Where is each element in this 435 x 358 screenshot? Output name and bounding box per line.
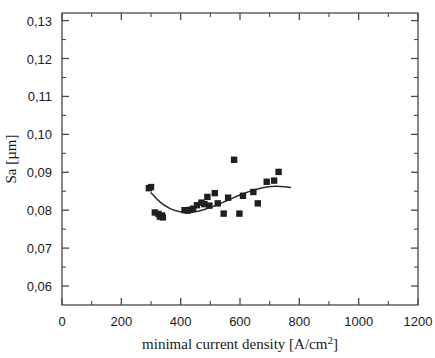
x-tick-label: 800 — [288, 314, 310, 329]
data-point — [225, 194, 231, 200]
y-tick-label: 0,07 — [27, 241, 52, 256]
data-point — [236, 210, 242, 216]
x-tick-label: 600 — [229, 314, 251, 329]
data-point — [220, 210, 226, 216]
y-tick-label: 0,06 — [27, 279, 52, 294]
data-point — [264, 179, 270, 185]
data-point — [250, 189, 256, 195]
data-point — [215, 200, 221, 206]
data-point — [160, 214, 166, 220]
data-point — [231, 157, 237, 163]
scatter-chart-figure: 0200400600800100012000,060,070,080,090,1… — [0, 0, 435, 358]
x-tick-label: 400 — [170, 314, 192, 329]
data-point — [148, 184, 154, 190]
y-tick-label: 0,10 — [27, 127, 52, 142]
y-tick-label: 0,12 — [27, 52, 52, 67]
data-point — [206, 202, 212, 208]
y-tick-label: 0,08 — [27, 203, 52, 218]
data-point — [240, 193, 246, 199]
data-point — [204, 194, 210, 200]
y-tick-label: 0,09 — [27, 165, 52, 180]
x-tick-label: 1200 — [404, 314, 433, 329]
y-tick-label: 0,11 — [28, 89, 52, 104]
y-axis: 0,060,070,080,090,100,110,120,13 — [27, 14, 418, 294]
x-axis: 020040060080010001200 — [58, 13, 432, 329]
data-point — [212, 190, 218, 196]
y-axis-title: Sa [µm] — [3, 134, 19, 183]
x-axis-title: minimal current density [A/cm2] — [142, 334, 338, 352]
x-tick-label: 1000 — [344, 314, 373, 329]
data-point — [255, 200, 261, 206]
x-tick-label: 200 — [110, 314, 132, 329]
plot-frame — [62, 13, 418, 305]
chart-canvas: 0200400600800100012000,060,070,080,090,1… — [0, 0, 435, 358]
data-point — [275, 169, 281, 175]
fit-curve-line — [151, 186, 290, 212]
y-tick-label: 0,13 — [27, 14, 52, 29]
x-tick-label: 0 — [58, 314, 65, 329]
data-point — [271, 177, 277, 183]
